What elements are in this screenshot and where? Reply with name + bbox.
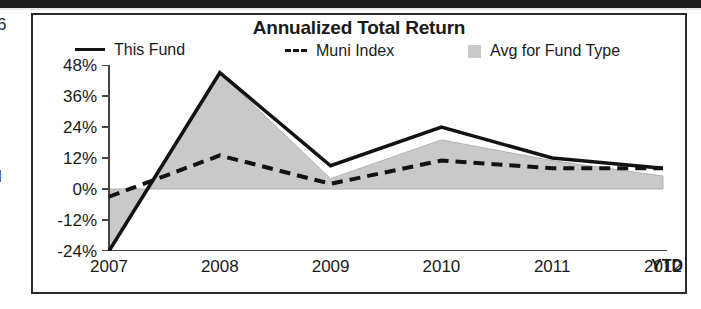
solid-line-key-icon <box>75 48 105 51</box>
chart-legend: This Fund Muni Index Avg for Fund Type <box>33 42 685 64</box>
y-tick-label: 24% <box>63 119 97 136</box>
dashed-line-key-icon <box>285 49 307 52</box>
chart-title: Annualized Total Return <box>33 17 685 39</box>
scan-artifact-top-hairline <box>0 8 701 10</box>
x-tick-label: 2009 <box>312 258 350 275</box>
y-axis-labels: 48%36%24%12%0%-12%-24% <box>33 65 97 251</box>
legend-item-muni-index: Muni Index <box>285 43 394 59</box>
scan-artifact-left-mid-fragment: l <box>0 168 6 185</box>
chart-plot-svg <box>101 65 671 251</box>
chart-frame: Annualized Total Return This Fund Muni I… <box>31 13 687 294</box>
legend-label-muni-index: Muni Index <box>316 43 394 59</box>
y-tick-label: -12% <box>57 212 97 229</box>
y-tick-label: 48% <box>63 57 97 74</box>
y-tick-label: 0% <box>72 181 97 198</box>
y-tick-label: 12% <box>63 150 97 167</box>
x-tick-label: 2010 <box>422 258 460 275</box>
legend-item-avg-fund-type: Avg for Fund Type <box>468 43 620 59</box>
gray-swatch-key-icon <box>468 45 481 58</box>
legend-label-avg-fund-type: Avg for Fund Type <box>490 43 620 59</box>
legend-label-this-fund: This Fund <box>114 42 185 58</box>
y-tick-label: 36% <box>63 88 97 105</box>
scan-artifact-top-band <box>0 0 701 8</box>
x-axis-labels: 200720082009201020112012 <box>33 258 689 282</box>
plot-area <box>101 65 671 251</box>
x-tick-label: 2007 <box>90 258 128 275</box>
x-tick-label: 2008 <box>201 258 239 275</box>
x-tick-label: 2011 <box>534 258 571 275</box>
x-axis-ytd-label: YTD <box>651 258 683 274</box>
scan-artifact-left-top-fragment: 6 <box>0 16 6 33</box>
